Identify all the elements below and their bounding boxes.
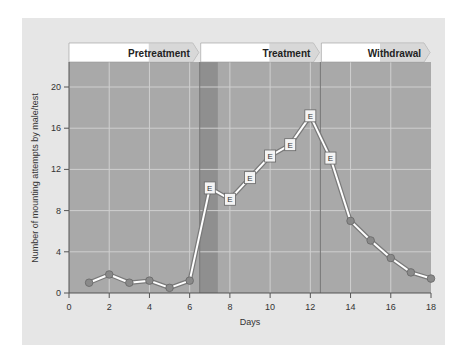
data-point-icon <box>166 284 174 292</box>
y-tick-label: 0 <box>56 288 61 298</box>
estrogen-marker-label: E <box>207 184 212 193</box>
estrogen-marker-label: E <box>288 141 293 150</box>
estrogen-marker-label: E <box>227 195 232 204</box>
phase-label: Withdrawal <box>368 48 421 59</box>
data-point-icon <box>85 279 93 287</box>
data-point-icon <box>407 269 415 277</box>
phase-label: Pretreatment <box>128 48 190 59</box>
y-axis-title: Number of mounting attempts by male/test <box>30 93 40 263</box>
estrogen-marker-label: E <box>267 152 272 161</box>
data-point-icon <box>126 279 134 287</box>
y-tick-label: 16 <box>51 123 61 133</box>
x-tick-label: 10 <box>265 302 275 312</box>
x-tick-label: 12 <box>305 302 315 312</box>
data-point-icon <box>427 275 435 283</box>
y-tick-label: 8 <box>56 206 61 216</box>
x-tick-label: 8 <box>227 302 232 312</box>
x-tick-label: 14 <box>346 302 356 312</box>
x-tick-label: 18 <box>426 302 436 312</box>
y-tick-label: 12 <box>51 164 61 174</box>
data-point-icon <box>387 254 395 262</box>
phase-headers: PretreatmentTreatmentWithdrawal <box>69 43 430 62</box>
estrogen-marker-label: E <box>308 112 313 121</box>
x-tick-label: 4 <box>147 302 152 312</box>
phase-label: Treatment <box>263 48 311 59</box>
y-tick-label: 20 <box>51 82 61 92</box>
chart: PretreatmentTreatmentWithdrawal 04812162… <box>0 0 467 361</box>
x-tick-label: 0 <box>66 302 71 312</box>
x-tick-label: 16 <box>386 302 396 312</box>
data-point-icon <box>367 237 375 245</box>
data-point-icon <box>186 277 194 285</box>
data-point-icon <box>105 271 113 279</box>
x-tick-label: 6 <box>187 302 192 312</box>
estrogen-marker-label: E <box>328 154 333 163</box>
x-tick-label: 2 <box>107 302 112 312</box>
data-point-icon <box>347 217 355 225</box>
estrogen-marker-label: E <box>247 174 252 183</box>
treatment-onset-band <box>200 62 218 293</box>
data-point-icon <box>146 277 154 285</box>
x-axis-title: Days <box>240 317 261 327</box>
y-tick-label: 4 <box>56 247 61 257</box>
